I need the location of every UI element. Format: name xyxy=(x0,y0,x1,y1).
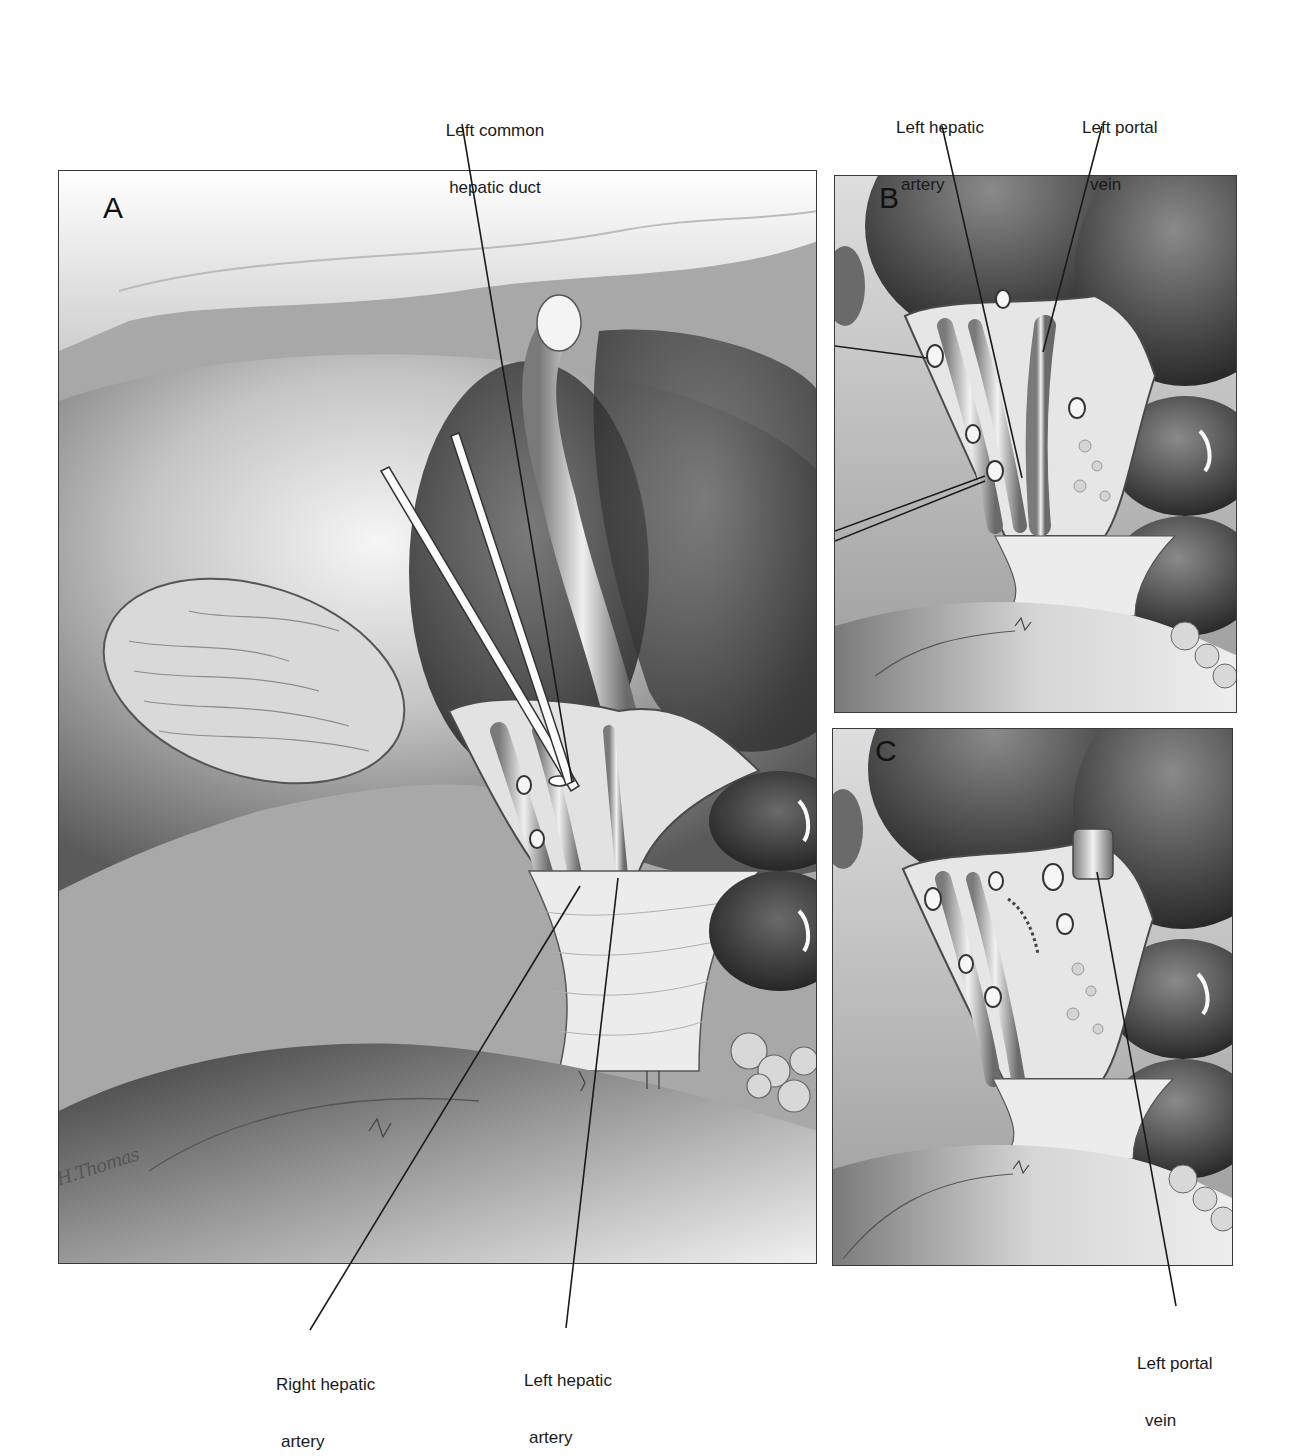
label-a-left-hepatic-artery: Left hepatic artery xyxy=(524,1333,612,1456)
panel-b: B xyxy=(834,175,1237,713)
label-line: Left portal xyxy=(1082,118,1158,137)
panel-label-b: B xyxy=(879,181,899,215)
panel-a-illustration xyxy=(59,171,817,1264)
label-line: vein xyxy=(1137,1411,1213,1430)
label-a-right-hepatic-artery: Right hepatic artery xyxy=(276,1337,375,1456)
panel-label-a: A xyxy=(103,191,123,225)
label-line: artery xyxy=(896,175,984,194)
label-line: artery xyxy=(276,1432,375,1451)
panel-label-c: C xyxy=(875,734,897,768)
label-line: Left common xyxy=(440,121,550,140)
label-line: artery xyxy=(524,1428,612,1447)
panel-c-illustration xyxy=(833,729,1233,1266)
label-c-left-portal-vein: Left portal vein xyxy=(1137,1316,1213,1449)
label-line: vein xyxy=(1082,175,1158,194)
label-b-left-portal-vein: Left portal vein xyxy=(1082,80,1158,213)
label-line: Left hepatic xyxy=(896,118,984,137)
label-line: Left portal xyxy=(1137,1354,1213,1373)
label-left-common-hepatic-duct: Left common hepatic duct xyxy=(440,83,550,216)
label-line: Left hepatic xyxy=(524,1371,612,1390)
panel-b-illustration xyxy=(835,176,1237,713)
panel-a: A H.Thomas xyxy=(58,170,817,1264)
panel-c: C xyxy=(832,728,1233,1266)
label-b-left-hepatic-artery: Left hepatic artery xyxy=(896,80,984,213)
label-line: hepatic duct xyxy=(440,178,550,197)
label-line: Right hepatic xyxy=(276,1375,375,1394)
